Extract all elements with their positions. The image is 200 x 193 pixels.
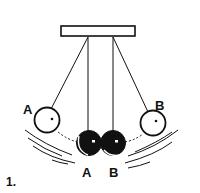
ball-a-raised bbox=[35, 108, 60, 133]
motion-lines-right-3 bbox=[125, 142, 172, 163]
support-bar bbox=[61, 26, 135, 36]
motion-lines-right-4 bbox=[128, 162, 150, 168]
string-a-raised bbox=[51, 37, 88, 109]
label-b-raised: B bbox=[155, 98, 164, 113]
pendulum-diagram: A B A B 1. bbox=[0, 0, 200, 193]
ball-a-lowest bbox=[77, 131, 102, 156]
ball-b-lowest bbox=[101, 131, 126, 156]
figure-number: 1. bbox=[6, 175, 16, 189]
string-b-raised bbox=[113, 37, 148, 112]
ball-b-raised bbox=[141, 111, 166, 136]
dotted-path-b bbox=[125, 134, 143, 142]
label-b-lowest: B bbox=[109, 165, 118, 180]
label-a-lowest: A bbox=[82, 165, 92, 180]
label-a-raised: A bbox=[23, 102, 33, 117]
motion-lines-left-1 bbox=[25, 130, 72, 155]
dotted-path-a bbox=[58, 132, 78, 142]
